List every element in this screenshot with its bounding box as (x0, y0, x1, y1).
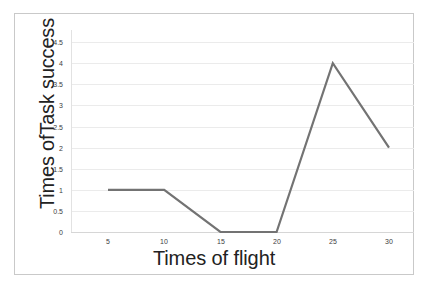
y-tick-label: 3 (59, 102, 63, 109)
chart-figure: Times ofTask success 4.5 4 3.5 3 2.5 2 1… (14, 13, 414, 275)
x-tick-label: 25 (329, 238, 337, 244)
y-tick-label: 2 (59, 145, 63, 152)
x-tick-label: 15 (217, 238, 225, 244)
y-tick-labels: 4.5 4 3.5 3 2.5 2 1.5 1 0.5 0 (53, 39, 63, 236)
y-tick-label: 0 (59, 229, 63, 236)
x-tick-labels: 5 10 15 20 25 30 (106, 238, 393, 244)
y-tick-label: 4 (59, 60, 63, 67)
y-tick-label: 1.5 (53, 166, 63, 173)
y-tick-label: 4.5 (53, 39, 63, 46)
x-axis-title: Times of flight (15, 247, 413, 270)
y-tick-label: 2.5 (53, 124, 63, 131)
x-tick-label: 30 (385, 238, 393, 244)
y-tick-label: 0.5 (53, 208, 63, 215)
plot-area: 4.5 4 3.5 3 2.5 2 1.5 1 0.5 0 5 10 15 20… (41, 16, 414, 244)
x-tick-label: 20 (273, 238, 281, 244)
x-tick-label: 5 (106, 238, 110, 244)
y-tick-label: 3.5 (53, 81, 63, 88)
x-tick-label: 10 (160, 238, 168, 244)
y-tick-label: 1 (59, 187, 63, 194)
gridlines (71, 42, 414, 211)
